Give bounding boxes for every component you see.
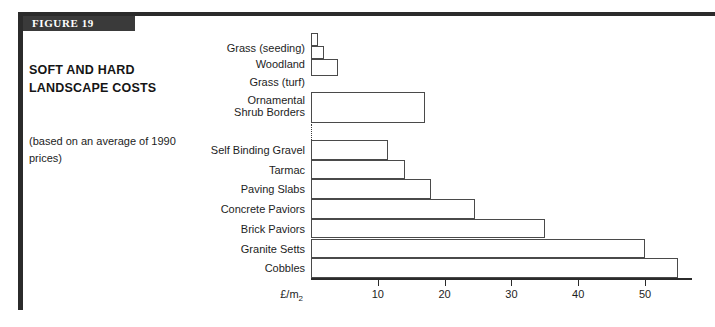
bar-grass-turf bbox=[311, 59, 338, 76]
x-axis-tick-label: 50 bbox=[639, 288, 651, 300]
bar-woodland bbox=[311, 46, 324, 59]
x-axis-tick bbox=[578, 280, 579, 286]
group-divider bbox=[311, 124, 312, 140]
figure-container: FIGURE 19 SOFT AND HARD LANDSCAPE COSTS … bbox=[0, 0, 715, 327]
bar-brick-paviors bbox=[311, 219, 545, 239]
bar-cobbles bbox=[311, 258, 678, 278]
x-axis-title: £/m2 bbox=[280, 288, 303, 303]
bar-concrete-paviors bbox=[311, 199, 475, 219]
category-label: Woodland bbox=[256, 58, 305, 70]
category-label: Grass (seeding) bbox=[227, 42, 305, 54]
bar-tarmac bbox=[311, 160, 405, 180]
category-label: Tarmac bbox=[269, 164, 305, 176]
bar-self-binding-gravel bbox=[311, 140, 388, 160]
bar-paving-slabs bbox=[311, 179, 431, 199]
x-axis-tick-label: 10 bbox=[372, 288, 384, 300]
x-axis-tick bbox=[645, 280, 646, 286]
category-label: Concrete Paviors bbox=[221, 203, 305, 215]
category-label: Granite Setts bbox=[241, 243, 305, 255]
x-axis-tick-label: 30 bbox=[505, 288, 517, 300]
x-axis-tick-label: 20 bbox=[438, 288, 450, 300]
category-label: Paving Slabs bbox=[241, 183, 305, 195]
bar-granite-setts bbox=[311, 239, 645, 259]
category-label: Brick Paviors bbox=[241, 223, 305, 235]
category-label: Cobbles bbox=[265, 262, 305, 274]
x-axis-tick bbox=[445, 280, 446, 286]
x-axis-line bbox=[311, 278, 692, 280]
bar-ornamental-shrub-borders bbox=[311, 92, 425, 123]
category-label: OrnamentalShrub Borders bbox=[234, 94, 305, 118]
category-label: Self Binding Gravel bbox=[211, 144, 305, 156]
x-axis-tick bbox=[378, 280, 379, 286]
x-axis-tick bbox=[511, 280, 512, 286]
x-axis-tick-label: 40 bbox=[572, 288, 584, 300]
category-label: Grass (turf) bbox=[249, 76, 305, 88]
bar-chart-plot: Grass (seeding)WoodlandGrass (turf)Ornam… bbox=[0, 0, 715, 327]
bar-grass-seeding bbox=[311, 33, 318, 46]
